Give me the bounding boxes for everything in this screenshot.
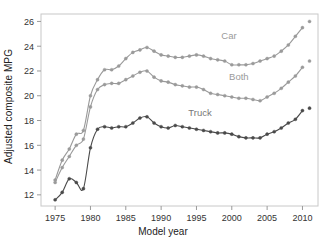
data-point	[188, 86, 191, 89]
data-point	[131, 51, 134, 54]
data-point	[145, 115, 148, 118]
data-point	[117, 82, 120, 85]
x-tick-label: 2000	[222, 213, 242, 223]
data-point	[131, 74, 134, 77]
data-point	[209, 57, 212, 60]
data-point	[202, 129, 205, 132]
data-point	[280, 87, 283, 90]
data-point	[117, 125, 120, 128]
data-point	[167, 81, 170, 84]
data-point	[195, 53, 198, 56]
x-axis-title: Model year	[0, 226, 326, 237]
data-point	[244, 97, 247, 100]
data-point	[145, 46, 148, 49]
data-point	[103, 83, 106, 86]
series-both	[54, 60, 311, 184]
data-point	[160, 125, 163, 128]
data-point	[103, 68, 106, 71]
data-point	[259, 60, 262, 63]
data-point	[308, 20, 311, 23]
data-point	[75, 144, 78, 147]
y-tick-label: 18	[24, 116, 34, 126]
data-point	[153, 50, 156, 53]
series-label-car: Car	[221, 30, 236, 41]
y-tick-label: 12	[24, 190, 34, 200]
data-point	[280, 50, 283, 53]
data-point	[188, 126, 191, 129]
data-point	[259, 99, 262, 102]
y-axis-title-text: Adjusted composite MPG	[4, 48, 15, 163]
data-point	[251, 62, 254, 65]
data-point	[301, 109, 304, 112]
data-point	[181, 56, 184, 59]
data-point	[138, 48, 141, 51]
data-point	[160, 53, 163, 56]
data-point	[54, 181, 57, 184]
data-point	[117, 64, 120, 67]
y-tick-label: 24	[24, 42, 34, 52]
data-point	[287, 121, 290, 124]
data-point	[167, 55, 170, 58]
data-point	[266, 57, 269, 60]
data-point	[294, 35, 297, 38]
x-tick-label: 1985	[116, 213, 136, 223]
data-point	[153, 121, 156, 124]
data-point	[138, 117, 141, 120]
data-point	[223, 131, 226, 134]
data-point	[237, 63, 240, 66]
data-point	[110, 126, 113, 129]
data-point	[216, 93, 219, 96]
data-point	[174, 56, 177, 59]
data-point	[301, 66, 304, 69]
data-point	[287, 81, 290, 84]
data-point	[294, 74, 297, 77]
x-tick-label: 1995	[186, 213, 206, 223]
series-label-truck: Truck	[188, 107, 212, 118]
data-point	[216, 131, 219, 134]
data-point	[96, 88, 99, 91]
data-point	[273, 92, 276, 95]
data-point	[280, 126, 283, 129]
data-point	[82, 129, 85, 132]
data-point	[103, 125, 106, 128]
series-label-both: Both	[229, 71, 249, 82]
data-point	[259, 136, 262, 139]
data-point	[202, 88, 205, 91]
y-tick-label: 14	[24, 166, 34, 176]
data-point	[273, 55, 276, 58]
data-point	[223, 94, 226, 97]
data-point	[82, 138, 85, 141]
data-point	[244, 136, 247, 139]
data-point	[244, 63, 247, 66]
data-point	[202, 55, 205, 58]
data-point	[110, 82, 113, 85]
x-tick-label: 1990	[151, 213, 171, 223]
data-point	[96, 128, 99, 131]
plot-frame	[41, 14, 318, 206]
series-line	[55, 111, 302, 200]
data-point	[138, 71, 141, 74]
data-point	[82, 187, 85, 190]
x-tick-label: 1975	[45, 213, 65, 223]
series-truck	[54, 107, 311, 202]
data-point	[160, 79, 163, 82]
data-point	[89, 94, 92, 97]
data-point	[54, 198, 57, 201]
data-point	[124, 125, 127, 128]
x-tick-label: 1980	[80, 213, 100, 223]
data-point	[181, 125, 184, 128]
data-point	[294, 118, 297, 121]
data-point	[266, 95, 269, 98]
data-point	[174, 83, 177, 86]
data-point	[308, 60, 311, 63]
data-point	[181, 84, 184, 87]
series-line	[55, 28, 302, 180]
y-tick-label: 26	[24, 17, 34, 27]
data-point	[237, 97, 240, 100]
data-point	[216, 58, 219, 61]
data-point	[89, 146, 92, 149]
data-point	[195, 86, 198, 89]
data-point	[188, 55, 191, 58]
data-point	[145, 69, 148, 72]
data-point	[209, 92, 212, 95]
